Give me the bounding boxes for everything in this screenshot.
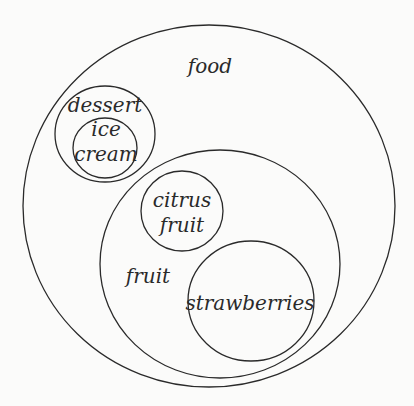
venn-diagram: food dessert ice cream citrus fruit frui… (0, 0, 414, 406)
label-cream: cream (74, 142, 138, 166)
label-dessert: dessert (68, 93, 144, 117)
label-ice: ice (91, 117, 120, 141)
diagram-canvas: food dessert ice cream citrus fruit frui… (0, 0, 414, 406)
label-citrus: citrus (153, 188, 211, 212)
label-fruit: fruit (124, 264, 171, 288)
label-citrus-fruit: fruit (158, 213, 205, 237)
label-food: food (186, 54, 232, 78)
label-strawberries: strawberries (185, 291, 314, 315)
